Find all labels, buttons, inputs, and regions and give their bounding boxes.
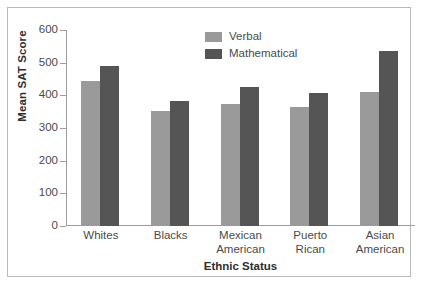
- y-tick-label: 600: [12, 24, 58, 36]
- bar-verbal: [151, 111, 170, 226]
- chart-frame: Mean SAT Score 0100200300400500600 White…: [7, 7, 411, 277]
- legend-label: Verbal: [229, 31, 262, 43]
- y-axis-tick-labels: 0100200300400500600: [8, 8, 58, 248]
- x-tick-label: PuertoRican: [275, 229, 345, 256]
- x-tick-label: Blacks: [136, 229, 206, 243]
- legend-swatch: [205, 49, 222, 59]
- x-tick-label: MexicanAmerican: [206, 229, 276, 256]
- y-tick-label: 100: [12, 187, 58, 199]
- bar-group: [136, 30, 206, 226]
- bar-verbal: [221, 104, 240, 226]
- legend-item: Verbal: [205, 30, 297, 43]
- x-tick-label: AsianAmerican: [345, 229, 415, 256]
- bar-mathematical: [170, 101, 189, 226]
- y-tick-label: 400: [12, 89, 58, 101]
- bar-mathematical: [309, 93, 328, 226]
- x-axis-title: Ethnic Status: [66, 260, 415, 272]
- y-tick-label: 300: [12, 122, 58, 134]
- y-tick-mark: [60, 226, 66, 227]
- bar-group: [66, 30, 136, 226]
- legend-label: Mathematical: [229, 48, 297, 60]
- legend-item: Mathematical: [205, 47, 297, 60]
- bar-verbal: [360, 92, 379, 226]
- bar-mathematical: [240, 87, 259, 226]
- legend-swatch: [205, 32, 222, 42]
- bar-group: [345, 30, 415, 226]
- bar-verbal: [290, 107, 309, 226]
- y-tick-label: 500: [12, 57, 58, 69]
- bar-verbal: [81, 81, 100, 226]
- x-tick-label: Whites: [66, 229, 136, 243]
- bar-mathematical: [100, 66, 119, 226]
- y-tick-label: 200: [12, 155, 58, 167]
- y-tick-label: 0: [12, 220, 58, 232]
- chart-legend: VerbalMathematical: [205, 30, 297, 64]
- bar-mathematical: [379, 51, 398, 226]
